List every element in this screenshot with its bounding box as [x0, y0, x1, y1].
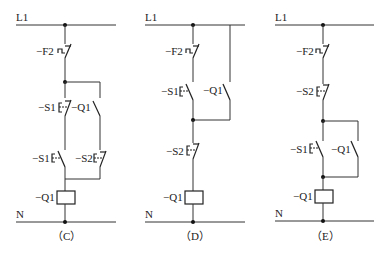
f2-overload-contact-symbol — [316, 44, 329, 58]
label-q1-coil: −Q1 — [293, 190, 313, 202]
s1-no-pushbutton-symbol — [52, 151, 65, 167]
q1-no-contact-symbol — [93, 101, 100, 116]
label-q1-contact: −Q1 — [331, 143, 351, 155]
q1-coil-symbol — [315, 190, 333, 203]
caption-d: （D） — [180, 230, 210, 242]
caption-e: （E） — [311, 230, 340, 242]
s1-nc-pushbutton-symbol — [59, 100, 71, 116]
rail-label-n: N — [145, 208, 153, 220]
q1-no-contact-symbol — [223, 84, 230, 100]
diagram-d: L1 −F2 −Q1 −S1 — [145, 11, 245, 242]
label-s2-nc: −S2 — [296, 85, 314, 97]
label-q1-coil: −Q1 — [163, 191, 183, 203]
q1-no-contact-symbol — [351, 141, 358, 157]
s2-nc-pushbutton-symbol — [317, 84, 329, 100]
diagram-c: L1 −F2 −S1 −Q1 — [16, 11, 116, 242]
rail-label-l1: L1 — [275, 11, 287, 23]
label-q1-contact: −Q1 — [71, 101, 91, 113]
label-s1-no: −S1 — [161, 85, 179, 97]
circuit-diagrams: L1 −F2 −S1 −Q1 — [0, 0, 387, 254]
diagram-e: L1 −F2 −S2 −S1 — [275, 11, 374, 242]
s2-nc-pushbutton-symbol — [187, 143, 199, 159]
s2-nc-pushbutton-symbol — [94, 151, 106, 167]
label-s1-no: −S1 — [290, 143, 308, 155]
f2-overload-contact-symbol — [186, 44, 199, 58]
caption-c: （C） — [52, 230, 81, 242]
q1-coil-symbol — [57, 191, 75, 204]
label-q1-contact: −Q1 — [203, 84, 223, 96]
label-f2: −F2 — [165, 45, 183, 57]
label-s1-no: −S1 — [32, 152, 50, 164]
f2-overload-contact-symbol — [58, 44, 71, 58]
label-s1-nc: −S1 — [38, 101, 56, 113]
label-f2: −F2 — [36, 45, 54, 57]
rail-label-n: N — [275, 207, 283, 219]
rail-label-l1: L1 — [16, 11, 28, 23]
label-q1-coil: −Q1 — [35, 191, 55, 203]
q1-coil-symbol — [185, 191, 203, 204]
rail-label-l1: L1 — [145, 11, 157, 23]
s1-no-pushbutton-symbol — [310, 141, 323, 157]
rail-label-n: N — [16, 208, 24, 220]
label-s2-nc: −S2 — [166, 145, 184, 157]
s1-no-pushbutton-symbol — [180, 84, 193, 100]
label-s2-nc: −S2 — [75, 152, 93, 164]
label-f2: −F2 — [296, 45, 314, 57]
